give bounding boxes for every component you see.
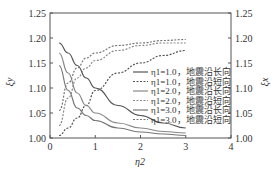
x-axis-label: η2 [135,156,145,167]
y-tick-label-right: 1.15 [235,58,253,69]
legend-label: η1=1.0，地震沿短向 [151,76,231,87]
y-tick-label-left: 1.25 [29,8,47,19]
y-tick-label-left: 1.00 [29,133,47,144]
legend-label: η1=2.0，地震沿长向 [151,85,231,96]
x-tick-label: 4 [229,141,234,152]
legend-label: η1=3.0，地震沿长向 [151,104,231,115]
y-tick-label-right: 1.20 [235,33,253,44]
y-tick-label-right: 1.25 [235,8,253,19]
x-tick-label: 2 [138,141,143,152]
y-tick-label-left: 1.20 [29,33,47,44]
x-tick-label: 3 [183,141,188,152]
x-tick-label: 0 [48,141,53,152]
x-tick-label: 1 [93,141,98,152]
y-axis-label-right: ξx [259,77,271,86]
y-tick-label-left: 1.15 [29,58,47,69]
legend-label: η1=2.0，地震沿短向 [151,95,231,106]
legend-label: η1=1.0，地震沿长向 [151,66,231,77]
legend-label: η1=3.0，地震沿短向 [151,114,231,125]
y-tick-label-left: 1.05 [29,108,47,119]
line-chart: 012341.001.001.051.051.101.101.151.151.2… [0,0,278,176]
legend: η1=1.0，地震沿长向η1=1.0，地震沿短向η1=2.0，地震沿长向η1=2… [133,66,231,125]
y-tick-label-right: 1.05 [235,108,253,119]
y-axis-label-left: ξy [4,77,16,86]
y-tick-label-right: 1.00 [235,133,253,144]
y-tick-label-right: 1.10 [235,83,253,94]
y-tick-label-left: 1.10 [29,83,47,94]
